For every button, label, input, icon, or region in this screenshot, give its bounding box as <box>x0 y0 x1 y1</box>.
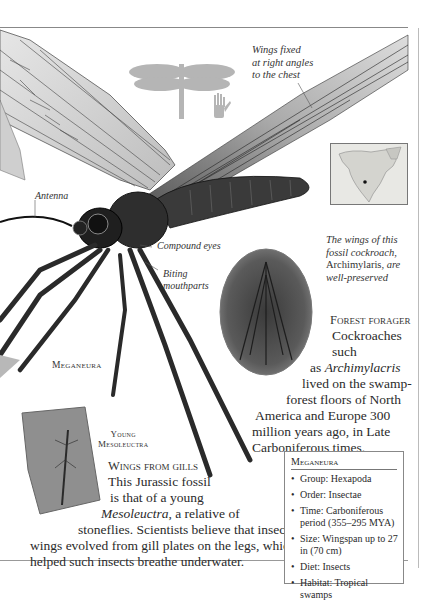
species-name: Mesoleuctra <box>101 506 168 521</box>
meganeura-label: Meganeura <box>52 360 102 370</box>
antenna <box>0 217 72 226</box>
mouthparts-label: Biting mouthparts <box>163 268 209 292</box>
fact-item: Diet: Insects <box>291 561 399 573</box>
map-inset <box>330 143 408 205</box>
body-line: as Archimylacris <box>228 360 418 376</box>
label-line: Young <box>98 429 148 439</box>
species-name: Archimylacris <box>325 360 401 375</box>
fact-item: Group: Hexapoda <box>291 473 399 485</box>
body-line: lived on the swamp- <box>228 376 418 392</box>
cockroach-name: Archimylaris, <box>326 259 384 270</box>
fact-box: Meganeura Group: Hexapoda Order: Insecta… <box>284 451 404 584</box>
fact-item: Order: Insectae <box>291 489 399 501</box>
label-line: Mesoleuctra <box>98 439 148 449</box>
wings-annotation-line: at right angles <box>252 57 313 70</box>
body-text: , a relative of <box>168 506 239 521</box>
body-text: as <box>310 360 325 375</box>
forest-forager-heading: Forest forager <box>228 313 418 328</box>
caption-text: are <box>384 259 400 270</box>
caption-line: well-preserved <box>326 272 400 285</box>
location-dot <box>363 180 367 184</box>
caption-line: fossil cockroach, <box>326 247 400 260</box>
mouthparts-line: Biting <box>163 268 209 280</box>
hand-scale-icon <box>214 93 231 118</box>
wings-from-gills-heading: Wings from gills <box>28 459 298 474</box>
body-line: Cockroaches such <box>228 328 418 360</box>
forest-forager-section: Forest forager Cockroaches such as Archi… <box>228 313 418 456</box>
compound-eyes-label: Compound eyes <box>157 240 221 251</box>
body-line: forest floors of North <box>228 392 418 408</box>
body-line: Mesoleuctra, a relative of <box>28 506 298 522</box>
wings-from-gills-section: Wings from gills This Jurassic fossil is… <box>28 459 298 570</box>
fact-item: Time: Carboniferous period (355–295 MYA) <box>291 505 399 529</box>
wings-annotation-line: to the chest <box>252 69 313 82</box>
body-line: wings evolved from gill plates on the le… <box>28 538 298 554</box>
compound-eye <box>88 214 108 234</box>
map-location-icon <box>331 144 407 204</box>
body-line: is that of a young <box>28 490 298 506</box>
body-line: helped such insects breathe underwater. <box>28 554 298 570</box>
left-wing <box>0 30 175 190</box>
body-line: stoneflies. Scientists believe that inse… <box>28 522 298 538</box>
body-line: This Jurassic fossil <box>28 474 298 490</box>
body-line: America and Europe 300 <box>228 408 418 424</box>
caption-line: Archimylaris, are <box>326 259 400 272</box>
mouthparts-line: mouthparts <box>163 280 209 292</box>
mesoleuctra-label: Young Mesoleuctra <box>98 429 148 449</box>
wings-annotation-line: Wings fixed <box>252 44 313 57</box>
caption-line: The wings of this <box>326 234 400 247</box>
wings-annotation: Wings fixed at right angles to the chest <box>252 44 313 82</box>
cockroach-caption: The wings of this fossil cockroach, Arch… <box>326 234 400 284</box>
fact-box-title: Meganeura <box>291 456 397 470</box>
antenna-label: Antenna <box>35 190 68 201</box>
fact-item: Size: Wingspan up to 27 in (70 cm) <box>291 533 399 557</box>
fact-list: Group: Hexapoda Order: Insectae Time: Ca… <box>285 473 403 601</box>
body-line: million years ago, in Late <box>228 424 418 440</box>
fact-item: Habitat: Tropical swamps <box>291 577 399 601</box>
